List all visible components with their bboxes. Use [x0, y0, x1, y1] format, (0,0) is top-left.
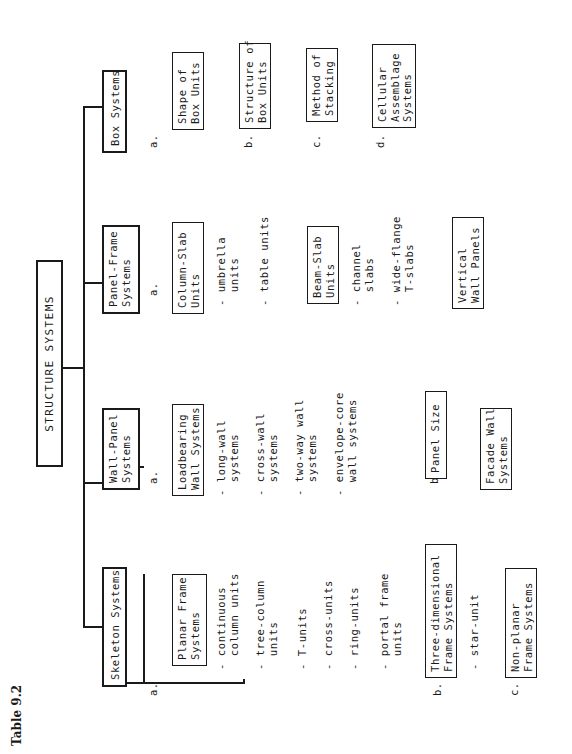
three-dimensional-frame-systems-box: Three-dimensional Frame Systems: [425, 544, 457, 678]
planar-frame-item-4: - cross-units: [322, 580, 335, 670]
beam-slab-item-1: - channel slabs: [350, 244, 375, 306]
spine-drop-box: [83, 106, 103, 108]
planar-frame-systems-box: Planar Frame Systems: [172, 574, 207, 666]
shape-of-box-units-box: Shape of Box Units: [172, 52, 204, 130]
category-skeleton-systems: Skeleton Systems: [102, 567, 127, 687]
planar-frame-item-5: - ring-units: [348, 587, 361, 670]
loadbearing-item-1: - long-wall systems: [215, 420, 240, 496]
marker-cellular-assemblage: d.: [374, 134, 386, 148]
marker-three-dimensional: b.: [431, 682, 443, 696]
spine-drop-wall-panel: [83, 482, 103, 484]
planar-frame-item-6: - portal frame units: [378, 573, 403, 670]
panel-size-box: Panel Size: [425, 391, 447, 479]
root-title-box: STRUCTURE SYSTEMS: [36, 260, 63, 467]
main-spine: [83, 106, 85, 628]
planar-frame-item-3: - T-units: [296, 608, 309, 670]
structure-systems-tree: Table 9.2 STRUCTURE SYSTEMS Skeleton Sys…: [0, 0, 572, 754]
category-wall-panel-systems: Wall-Panel Systems: [102, 408, 140, 490]
wall-panel-stem: [140, 466, 144, 468]
spine-drop-skeleton: [83, 626, 103, 628]
skeleton-stem-down: [127, 682, 144, 684]
planar-frame-item-2: - tree-column units: [254, 580, 279, 670]
spine-drop-panel-frame: [83, 282, 103, 284]
three-dimensional-item-1: - star-unit: [468, 594, 481, 670]
marker-structure-box-units: b.: [242, 134, 254, 148]
non-planar-frame-systems-box: Non-planar Frame Systems: [505, 568, 537, 678]
loadbearing-wall-systems-box: Loadbearing Wall Systems: [172, 404, 204, 496]
root-connector: [63, 367, 83, 369]
loadbearing-item-3: - two-way wall systems: [293, 399, 318, 496]
vertical-wall-panels-box: Vertical Wall Panels: [452, 217, 484, 309]
structure-of-box-units-box: Structure of Box Units: [239, 43, 271, 129]
beam-slab-units-box: Beam-Slab Units: [307, 226, 339, 304]
marker-loadbearing: a.: [147, 470, 159, 484]
category-panel-frame-systems: Panel-Frame Systems: [102, 225, 140, 314]
method-of-stacking-box: Method of Stacking: [306, 48, 338, 122]
facade-wall-systems-box: Facade Wall Systems: [480, 408, 512, 490]
column-slab-item-1: - umbrella units: [215, 237, 240, 306]
loadbearing-item-2: - cross-wall systems: [254, 413, 279, 496]
marker-non-planar: c.: [508, 682, 520, 696]
cellular-assemblage-systems-box: Cellular Assemblage Systems: [372, 44, 416, 128]
marker-planar-frame: a.: [147, 682, 159, 696]
marker-shape-box-units: a.: [147, 134, 159, 148]
marker-method-stacking: c.: [310, 134, 322, 148]
column-slab-units-box: Column-Slab Units: [172, 222, 204, 314]
marker-column-slab: a.: [147, 282, 159, 296]
skeleton-bus-vert: [243, 682, 244, 684]
beam-slab-item-2: - wide-flange T-slabs: [390, 216, 415, 306]
root-title: STRUCTURE SYSTEMS: [43, 295, 56, 431]
skeleton-children-bus: [143, 574, 145, 684]
category-box-systems: Box Systems: [102, 70, 127, 153]
loadbearing-item-4: - envelope-core wall systems: [333, 392, 358, 496]
column-slab-item-2: - table units: [258, 216, 271, 306]
planar-frame-item-1: - continuous column units: [215, 573, 240, 670]
table-caption: Table 9.2: [10, 685, 24, 746]
